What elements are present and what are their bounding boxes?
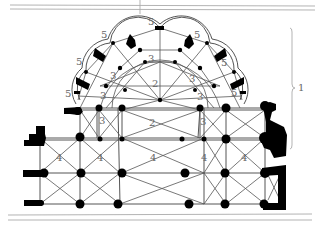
label-3-l1: 3 — [110, 70, 116, 81]
label-5-l3: 5 — [65, 88, 71, 99]
label-5-r3: 5 — [231, 87, 237, 98]
label-3-r2: 3 — [197, 91, 203, 102]
label-4-c: 4 — [150, 152, 156, 163]
label-3-r3: 3 — [200, 116, 206, 127]
label-5-l2: 5 — [76, 56, 82, 67]
apse-plan-diagram: 1 2 2 3 3 3 3 3 3 3 4 4 4 4 4 5 5 5 5 5 … — [0, 0, 321, 227]
label-4-b: 4 — [97, 152, 103, 163]
label-2-upper: 2 — [152, 78, 158, 89]
label-3-l3: 3 — [99, 115, 105, 126]
label-5-top: 5 — [148, 16, 154, 27]
label-4-a: 4 — [56, 152, 62, 163]
label-4-e: 4 — [241, 152, 247, 163]
height-bracket — [290, 28, 295, 149]
label-2-lower: 2 — [149, 117, 155, 128]
label-1: 1 — [298, 82, 304, 93]
label-3-center: 3 — [148, 53, 154, 64]
label-5-r1: 5 — [194, 29, 200, 40]
label-3-r1: 3 — [189, 73, 195, 84]
label-5-l1: 5 — [101, 29, 107, 40]
label-5-r2: 5 — [221, 57, 227, 68]
label-3-l2: 3 — [100, 90, 106, 101]
label-4-d: 4 — [201, 152, 207, 163]
